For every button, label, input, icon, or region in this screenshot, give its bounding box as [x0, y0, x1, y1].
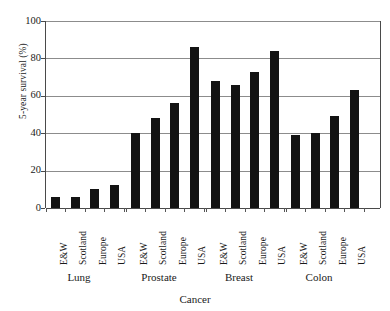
bar — [151, 118, 160, 208]
y-tick-label: 60 — [1, 90, 41, 101]
x-tick-mark — [165, 208, 166, 212]
y-tick-label: 40 — [1, 128, 41, 139]
bar — [231, 85, 240, 208]
x-tick-label: Scotland — [318, 231, 328, 265]
x-axis-title: Cancer — [0, 293, 390, 305]
x-tick-mark — [204, 208, 205, 212]
bar — [170, 103, 179, 208]
bar — [311, 133, 320, 208]
x-tick-mark — [286, 208, 287, 212]
bar — [211, 81, 220, 208]
gridline — [46, 21, 380, 22]
x-tick-mark — [284, 208, 285, 212]
bar — [110, 185, 119, 208]
bar — [330, 116, 339, 208]
bar — [270, 51, 279, 208]
x-tick-label: Europe — [98, 237, 108, 265]
x-tick-label: USA — [357, 246, 367, 265]
x-tick-mark — [104, 208, 105, 212]
x-tick-label: Scotland — [158, 231, 168, 265]
y-tick-label: 0 — [1, 203, 41, 214]
x-tick-mark — [325, 208, 326, 212]
x-tick-mark — [245, 208, 246, 212]
x-tick-mark — [46, 208, 47, 212]
x-tick-mark — [124, 208, 125, 212]
x-tick-mark — [364, 208, 365, 212]
x-tick-label: E&W — [299, 243, 309, 265]
plot-area — [45, 21, 381, 208]
x-tick-mark — [85, 208, 86, 212]
bar-chart: 5-year survival (%) 020406080100 E&WScot… — [0, 0, 390, 311]
bar — [250, 72, 259, 209]
x-tick-label: USA — [277, 246, 287, 265]
x-tick-mark — [344, 208, 345, 212]
x-tick-label: USA — [197, 246, 207, 265]
x-tick-label: Europe — [338, 237, 348, 265]
x-tick-mark — [184, 208, 185, 212]
bar — [51, 197, 60, 208]
y-tick-label: 80 — [1, 53, 41, 64]
bar — [90, 189, 99, 208]
x-tick-mark — [305, 208, 306, 212]
x-tick-label: Europe — [258, 237, 268, 265]
gridline — [46, 208, 380, 209]
x-tick-label: USA — [117, 246, 127, 265]
x-tick-mark — [126, 208, 127, 212]
x-tick-mark — [206, 208, 207, 212]
bar — [291, 135, 300, 208]
x-tick-mark — [225, 208, 226, 212]
x-axis-group-label: Colon — [270, 271, 368, 283]
bar — [71, 197, 80, 208]
x-tick-label: E&W — [59, 243, 69, 265]
x-tick-label: Scotland — [238, 231, 248, 265]
x-tick-label: Scotland — [78, 231, 88, 265]
bar — [350, 90, 359, 208]
gridline — [46, 58, 380, 59]
x-tick-label: E&W — [139, 243, 149, 265]
y-tick-mark — [41, 208, 45, 209]
x-tick-label: Europe — [178, 237, 188, 265]
y-tick-label: 20 — [1, 165, 41, 176]
bar — [131, 133, 140, 208]
x-tick-mark — [65, 208, 66, 212]
x-tick-label: E&W — [219, 243, 229, 265]
y-tick-label: 100 — [1, 16, 41, 27]
x-tick-mark — [145, 208, 146, 212]
x-tick-mark — [264, 208, 265, 212]
bar — [190, 47, 199, 208]
